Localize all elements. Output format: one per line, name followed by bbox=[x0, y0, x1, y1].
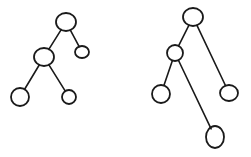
left-tree bbox=[11, 13, 89, 106]
right-tree bbox=[152, 8, 238, 148]
tree-node bbox=[220, 85, 238, 101]
tree-node bbox=[152, 85, 170, 103]
tree-node bbox=[56, 13, 76, 31]
tree-edge bbox=[70, 30, 79, 47]
tree-node bbox=[62, 90, 76, 104]
tree-edge bbox=[178, 60, 211, 129]
tree-node bbox=[183, 8, 203, 26]
tree-edge bbox=[49, 30, 61, 50]
tree-diagram-canvas bbox=[0, 0, 251, 157]
tree-node bbox=[206, 126, 224, 148]
tree-edge bbox=[164, 61, 173, 86]
tree-node bbox=[167, 45, 183, 61]
tree-node bbox=[75, 46, 89, 58]
tree-node bbox=[34, 48, 54, 66]
tree-edge bbox=[49, 65, 66, 91]
tree-node bbox=[11, 88, 29, 106]
tree-edge bbox=[197, 25, 226, 86]
tree-edge bbox=[25, 65, 40, 90]
tree-edge bbox=[179, 25, 189, 46]
